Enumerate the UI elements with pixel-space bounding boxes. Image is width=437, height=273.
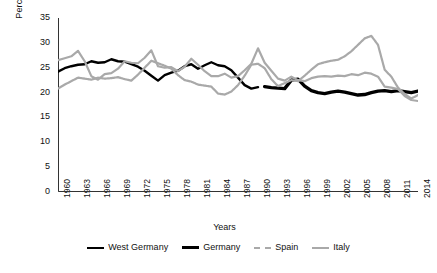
y-axis-tick-label: 15: [24, 111, 50, 121]
y-axis-tick-label: 0: [24, 186, 50, 196]
legend-item-germany[interactable]: Germany: [182, 243, 240, 252]
legend-item-italy[interactable]: Italy: [312, 243, 350, 252]
y-axis-title-text: Percentage shares: [14, 0, 24, 40]
legend-swatch-icon: [87, 247, 104, 249]
legend-item-spain[interactable]: Spain: [254, 243, 298, 252]
legend-label: West Germany: [108, 243, 168, 252]
x-axis-title: Years: [0, 222, 437, 232]
legend-swatch-icon: [182, 246, 199, 249]
y-axis-tick-label: 30: [24, 37, 50, 47]
plot-area: [58, 18, 418, 192]
y-axis-title: Percentage shares: [14, 0, 24, 40]
y-axis-tick-label: 35: [24, 12, 50, 22]
y-axis-tick-label: 10: [24, 136, 50, 146]
series-canvas: [58, 18, 418, 192]
x-axis-title-text: Years: [213, 222, 236, 232]
y-axis-tick-label: 5: [24, 161, 50, 171]
chart-legend: West GermanyGermanySpainItaly: [0, 243, 437, 252]
y-axis-tick-label: 20: [24, 87, 50, 97]
x-axis-tick-label: 2014: [422, 179, 432, 198]
legend-swatch-icon: [312, 247, 329, 249]
legend-label: Germany: [203, 243, 240, 252]
chart-figure: Percentage shares 05101520253035 1960196…: [0, 0, 437, 273]
legend-swatch-icon: [254, 247, 271, 249]
legend-item-west-germany[interactable]: West Germany: [87, 243, 168, 252]
legend-label: Spain: [275, 243, 298, 252]
legend-label: Italy: [333, 243, 350, 252]
series-line-spain: [58, 36, 418, 99]
y-axis-tick-label: 25: [24, 62, 50, 72]
axis-spine: [59, 18, 419, 192]
